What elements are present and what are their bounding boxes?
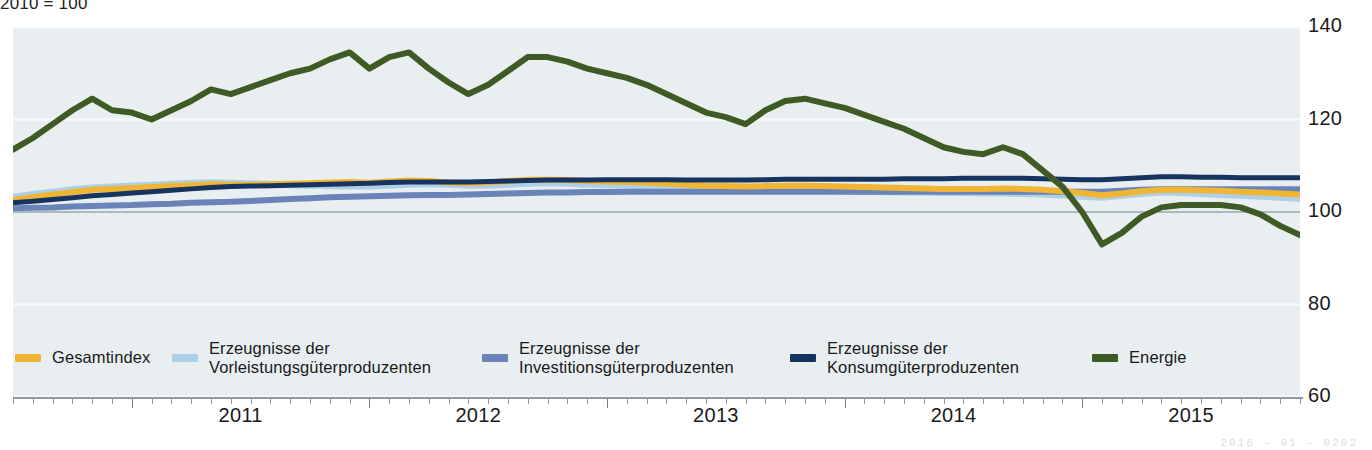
x-axis-year-labels: 20112012201320142015 bbox=[0, 404, 1372, 430]
x-year-label: 2011 bbox=[219, 404, 263, 427]
chart-legend: GesamtindexErzeugnisse der Vorleistungsg… bbox=[13, 335, 1303, 381]
x-year-label: 2014 bbox=[931, 404, 977, 427]
legend-swatch-energie-icon bbox=[1092, 354, 1118, 362]
legend-item-energie[interactable]: Energie bbox=[1092, 335, 1187, 381]
legend-label: Erzeugnisse der Konsumgüterproduzenten bbox=[827, 339, 1019, 378]
y-tick-label: 80 bbox=[1308, 292, 1331, 315]
legend-item-investition[interactable]: Erzeugnisse der Investitionsgüterproduze… bbox=[482, 335, 734, 381]
x-year-label: 2013 bbox=[693, 404, 739, 427]
legend-swatch-investition-icon bbox=[482, 354, 508, 362]
source-note: 2016 - 01 - 0202 bbox=[1220, 437, 1358, 449]
y-tick-label: 100 bbox=[1308, 199, 1342, 222]
legend-item-konsum[interactable]: Erzeugnisse der Konsumgüterproduzenten bbox=[790, 335, 1019, 381]
legend-label: Energie bbox=[1129, 348, 1187, 367]
chart-subtitle: 2010 = 100 bbox=[0, 0, 88, 14]
y-tick-label: 120 bbox=[1308, 107, 1342, 130]
legend-swatch-gesamtindex-icon bbox=[15, 354, 41, 362]
legend-item-gesamtindex[interactable]: Gesamtindex bbox=[15, 335, 150, 381]
legend-label: Erzeugnisse der Vorleistungsgüterproduze… bbox=[209, 339, 431, 378]
y-tick-label: 140 bbox=[1308, 14, 1342, 37]
legend-label: Erzeugnisse der Investitionsgüterproduze… bbox=[519, 339, 734, 378]
chart-page: 2010 = 100 1401201008060 201120122013201… bbox=[0, 0, 1372, 450]
x-year-label: 2015 bbox=[1168, 404, 1214, 427]
legend-swatch-konsum-icon bbox=[790, 354, 816, 362]
y-axis-labels: 1401201008060 bbox=[1308, 0, 1372, 450]
legend-swatch-vorleistung-icon bbox=[172, 354, 198, 362]
x-year-label: 2012 bbox=[455, 404, 501, 427]
legend-item-vorleistung[interactable]: Erzeugnisse der Vorleistungsgüterproduze… bbox=[172, 335, 431, 381]
legend-label: Gesamtindex bbox=[52, 348, 150, 367]
